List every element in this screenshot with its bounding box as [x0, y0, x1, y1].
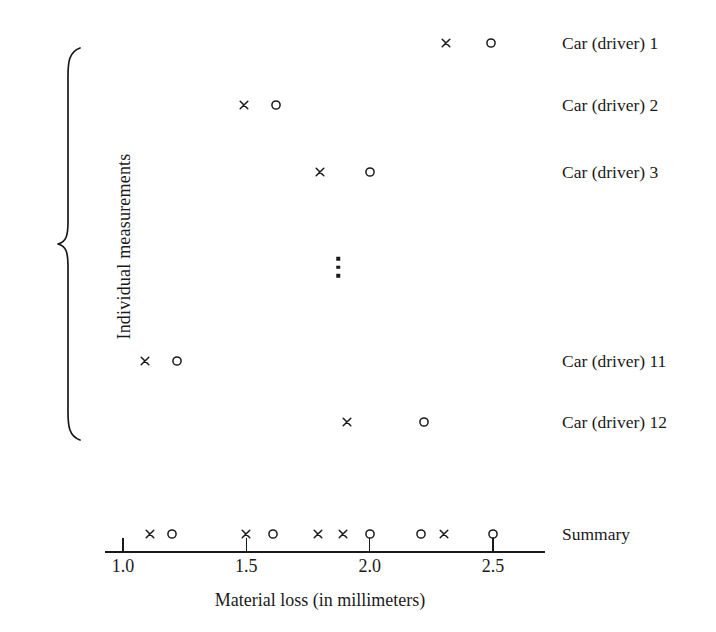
plot-area: Car (driver) 1Car (driver) 2Car (driver)… — [0, 0, 716, 632]
x-tick-2.5 — [492, 538, 494, 552]
summary-point-circle-4 — [414, 527, 428, 541]
x-tick-2.0 — [369, 538, 371, 552]
summary-point-circle-2 — [266, 527, 280, 541]
summary-point-cross-4 — [336, 527, 350, 541]
data-point-cross-row-2 — [237, 98, 251, 112]
summary-point-cross-1 — [143, 527, 157, 541]
row-label-1: Car (driver) 1 — [562, 33, 658, 54]
summary-point-circle-1 — [165, 527, 179, 541]
vertical-ellipsis-icon — [336, 257, 340, 278]
material-loss-dotplot-figure: Individual measurements Car (driver) 1Ca… — [0, 0, 716, 632]
data-point-circle-row-3 — [363, 165, 377, 179]
x-tick-1.5 — [246, 538, 248, 552]
row-label-4: Car (driver) 11 — [562, 351, 666, 372]
data-point-circle-row-5 — [417, 415, 431, 429]
x-tick-label-1.0: 1.0 — [112, 556, 135, 577]
data-point-cross-row-3 — [313, 165, 327, 179]
data-point-cross-row-1 — [439, 36, 453, 50]
row-label-5: Car (driver) 12 — [562, 412, 667, 433]
row-label-2: Car (driver) 2 — [562, 95, 658, 116]
x-tick-label-2.0: 2.0 — [358, 556, 381, 577]
data-point-circle-row-1 — [484, 36, 498, 50]
row-label-3: Car (driver) 3 — [562, 162, 658, 183]
row-label-summary: Summary — [562, 524, 630, 545]
x-tick-label-1.5: 1.5 — [235, 556, 258, 577]
data-point-cross-row-4 — [138, 354, 152, 368]
data-point-cross-row-5 — [340, 415, 354, 429]
data-point-circle-row-4 — [170, 354, 184, 368]
summary-point-cross-5 — [437, 527, 451, 541]
summary-point-cross-3 — [311, 527, 325, 541]
x-axis-line — [105, 551, 545, 553]
x-tick-label-2.5: 2.5 — [482, 556, 505, 577]
data-point-circle-row-2 — [269, 98, 283, 112]
x-axis-title: Material loss (in millimeters) — [0, 590, 640, 611]
x-tick-1.0 — [122, 538, 124, 552]
